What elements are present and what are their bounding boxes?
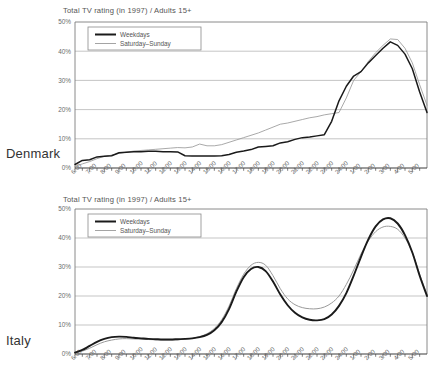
series-line-saturday-sunday <box>75 226 427 353</box>
x-tick-label: 2:00 <box>363 161 377 175</box>
chart-legend: WeekdaysSaturday–Sunday <box>88 27 201 50</box>
line-chart-italy: 0%10%20%30%40%50%6:007:008:009:0010:0011… <box>0 189 445 377</box>
y-tick-label: 40% <box>58 234 71 241</box>
chart-panel-denmark: Denmark Total TV rating (in 1997) / Adul… <box>0 0 445 188</box>
x-tick-label: 1:00 <box>348 161 362 175</box>
x-tick-label: 18:00 <box>245 345 261 361</box>
x-tick-label: 10:00 <box>128 345 144 361</box>
x-tick-label: 24:00 <box>333 159 349 175</box>
x-tick-label: 15:00 <box>201 345 217 361</box>
series-line-weekdays <box>75 42 427 165</box>
x-tick-label: 19:00 <box>260 345 276 361</box>
x-tick-label: 16:00 <box>216 159 232 175</box>
x-tick-label: 9:00 <box>113 161 127 175</box>
line-chart-denmark: 0%10%20%30%40%50%6:007:008:009:0010:0011… <box>0 0 445 188</box>
x-tick-label: 4:00 <box>392 347 406 361</box>
y-tick-label: 40% <box>58 48 71 55</box>
x-tick-label: 14:00 <box>187 159 203 175</box>
legend-label-weekdays: Weekdays <box>120 218 150 226</box>
x-tick-label: 19:00 <box>260 159 276 175</box>
x-tick-label: 21:00 <box>289 345 305 361</box>
plot-area-denmark: 0%10%20%30%40%50%6:007:008:009:0010:0011… <box>0 0 445 188</box>
x-tick-label: 21:00 <box>289 159 305 175</box>
y-tick-label: 20% <box>58 106 71 113</box>
x-tick-label: 8:00 <box>99 347 113 361</box>
x-tick-label: 15:00 <box>201 159 217 175</box>
y-tick-label: 30% <box>58 77 71 84</box>
x-tick-label: 2:00 <box>363 347 377 361</box>
x-tick-label: 14:00 <box>187 345 203 361</box>
x-tick-label: 7:00 <box>84 161 98 175</box>
x-tick-label: 5:00 <box>407 161 421 175</box>
x-tick-label: 9:00 <box>113 347 127 361</box>
y-tick-label: 30% <box>58 263 71 270</box>
legend-label-saturday-sunday: Saturday–Sunday <box>120 227 172 235</box>
plot-area-italy: 0%10%20%30%40%50%6:007:008:009:0010:0011… <box>0 189 445 377</box>
x-tick-label: 17:00 <box>231 159 247 175</box>
y-tick-label: 10% <box>58 135 71 142</box>
x-tick-label: 20:00 <box>275 345 291 361</box>
x-tick-label: 24:00 <box>333 345 349 361</box>
x-tick-label: 4:00 <box>392 161 406 175</box>
x-tick-label: 23:00 <box>319 159 335 175</box>
x-tick-label: 16:00 <box>216 345 232 361</box>
x-tick-label: 11:00 <box>143 159 159 175</box>
x-tick-label: 17:00 <box>231 345 247 361</box>
x-tick-label: 20:00 <box>275 159 291 175</box>
x-tick-label: 5:00 <box>407 347 421 361</box>
chart-legend: WeekdaysSaturday–Sunday <box>88 214 201 237</box>
chart-panel-italy: Italy Total TV rating (in 1997) / Adults… <box>0 189 445 377</box>
y-tick-label: 10% <box>58 321 71 328</box>
x-tick-label: 22:00 <box>304 345 320 361</box>
y-tick-label: 20% <box>58 292 71 299</box>
x-tick-label: 12:00 <box>157 159 173 175</box>
legend-label-saturday-sunday: Saturday–Sunday <box>120 40 172 48</box>
x-tick-label: 22:00 <box>304 159 320 175</box>
x-tick-label: 13:00 <box>172 159 188 175</box>
x-tick-label: 18:00 <box>245 159 261 175</box>
y-tick-label: 50% <box>58 205 71 212</box>
x-tick-label: 12:00 <box>157 345 173 361</box>
x-tick-label: 13:00 <box>172 345 188 361</box>
y-tick-label: 50% <box>58 18 71 25</box>
x-tick-label: 23:00 <box>319 345 335 361</box>
x-tick-label: 1:00 <box>348 347 362 361</box>
x-tick-label: 8:00 <box>99 161 113 175</box>
x-tick-label: 11:00 <box>143 345 159 361</box>
x-tick-label: 3:00 <box>377 347 391 361</box>
x-tick-label: 6:00 <box>69 347 83 361</box>
legend-label-weekdays: Weekdays <box>120 31 150 39</box>
tv-rating-chart-page: Denmark Total TV rating (in 1997) / Adul… <box>0 0 445 377</box>
x-tick-label: 10:00 <box>128 159 144 175</box>
x-tick-label: 3:00 <box>377 161 391 175</box>
